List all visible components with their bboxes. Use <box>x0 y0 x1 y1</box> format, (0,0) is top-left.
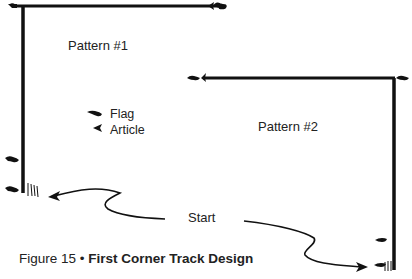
start-line-hatch <box>385 261 391 271</box>
pattern-1-track <box>16 6 222 193</box>
caption-title: First Corner Track Design <box>88 251 253 266</box>
pattern-2-label: Pattern #2 <box>258 120 318 133</box>
legend-flag-label: Flag <box>110 108 134 121</box>
figure-caption: Figure 15 • First Corner Track Design <box>19 252 253 266</box>
figure-canvas: Pattern #1 Pattern #2 Flag Article Start… <box>0 0 412 279</box>
caption-prefix: Figure 15 <box>19 251 76 266</box>
flag-icon <box>374 263 386 267</box>
caption-separator: • <box>76 251 88 266</box>
legend-article-icon <box>93 124 102 132</box>
start-line-hatch <box>28 183 38 197</box>
flag-icon <box>5 186 19 192</box>
flag-icon <box>214 3 226 8</box>
pattern-1-label: Pattern #1 <box>68 39 128 52</box>
legend-flag-icon <box>87 111 102 117</box>
pattern-2-track <box>203 78 395 270</box>
flag-icon <box>396 76 409 81</box>
start-arrow-right <box>244 221 368 272</box>
flag-icon <box>5 156 19 162</box>
start-arrow-left <box>48 189 165 219</box>
flag-icon <box>8 4 17 8</box>
diagram-svg <box>0 0 412 279</box>
legend-article-label: Article <box>110 124 145 137</box>
flag-icon <box>375 238 387 242</box>
flag-icon <box>187 76 200 81</box>
start-label: Start <box>188 211 215 224</box>
